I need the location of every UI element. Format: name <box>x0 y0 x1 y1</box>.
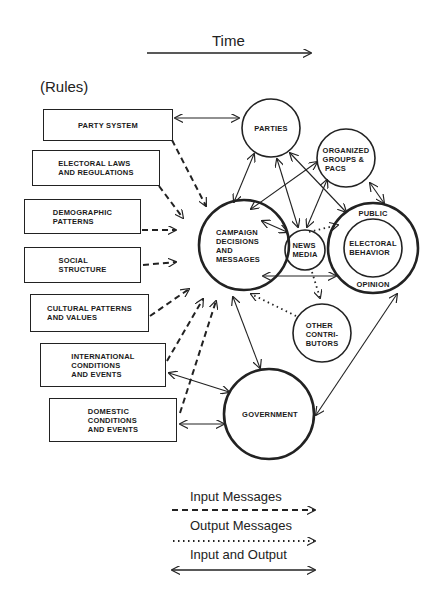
box-label: CULTURAL PATTERNS AND VALUES <box>47 304 132 322</box>
public-label: PUBLIC <box>358 209 387 218</box>
organized-groups-label: ORGANIZED GROUPS & PACS <box>323 146 370 173</box>
box-label: ELECTORAL LAWS AND REGULATIONS <box>58 159 133 177</box>
box-cultural-patterns: CULTURAL PATTERNS AND VALUES <box>30 294 149 332</box>
box-party-system: PARTY SYSTEM <box>43 109 173 141</box>
legend-output-label: Output Messages <box>190 518 292 533</box>
electoral-behavior-label: ELECTORAL BEHAVIOR <box>349 239 397 257</box>
news-media-label: NEWS MEDIA <box>292 241 317 259</box>
rules-label: (Rules) <box>40 78 88 95</box>
legend-both-label: Input and Output <box>190 547 287 562</box>
box-international-conditions: INTERNATIONAL CONDITIONS AND EVENTS <box>40 343 166 387</box>
box-social-structure: SOCIAL STRUCTURE <box>24 247 141 283</box>
box-label: DEMOGRAPHIC PATTERNS <box>53 208 112 226</box>
parties-label: PARTIES <box>254 124 287 133</box>
box-domestic-conditions: DOMESTIC CONDITIONS AND EVENTS <box>49 398 177 442</box>
box-electoral-laws: ELECTORAL LAWS AND REGULATIONS <box>32 150 160 186</box>
box-label: INTERNATIONAL CONDITIONS AND EVENTS <box>71 352 134 379</box>
box-label: SOCIAL STRUCTURE <box>58 256 106 274</box>
campaign-label: CAMPAIGN DECISIONS AND MESSAGES <box>216 228 260 264</box>
other-contributors-label: OTHER CONTRI- BUTORS <box>306 321 339 348</box>
government-label: GOVERNMENT <box>242 410 298 419</box>
box-label: DOMESTIC CONDITIONS AND EVENTS <box>88 407 138 434</box>
box-label: PARTY SYSTEM <box>78 121 138 130</box>
opinion-label: OPINION <box>356 280 389 289</box>
legend-input-label: Input Messages <box>190 489 282 504</box>
time-label: Time <box>212 32 245 49</box>
box-demographic-patterns: DEMOGRAPHIC PATTERNS <box>24 199 141 234</box>
